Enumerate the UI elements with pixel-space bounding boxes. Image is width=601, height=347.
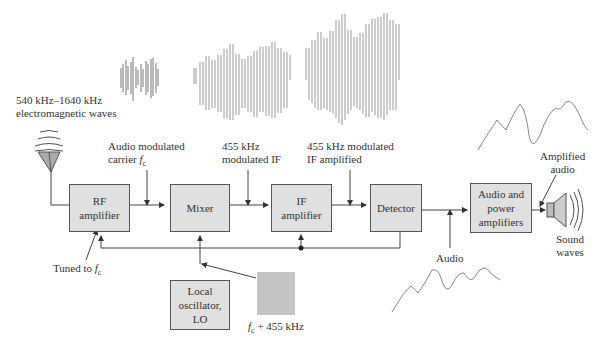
speaker-icon — [547, 189, 583, 231]
if-output-label: 455 kHz modulated IF amplified — [307, 140, 394, 166]
audio-line3: amplifiers — [478, 215, 524, 229]
sound-waves-label: Sound waves — [556, 233, 584, 259]
audio-line1: Audio and — [478, 187, 524, 201]
waveform-lo — [258, 272, 294, 315]
lo-line1: Local — [178, 284, 221, 298]
lo-line2: oscillator, — [178, 298, 221, 312]
waveform-carrier — [121, 57, 158, 101]
waveform-if-amplified — [306, 13, 399, 125]
lo-line3: LO — [178, 312, 221, 326]
detector-label: Detector — [377, 201, 415, 215]
em-waves-label: 540 kHz–1640 kHz electromagnetic waves — [16, 94, 116, 120]
detector-block: Detector — [370, 184, 422, 232]
diagram-lines — [0, 0, 601, 347]
audio-line2: power — [478, 201, 524, 215]
local-oscillator-block: Localoscillator,LO — [170, 280, 230, 330]
junction-dot — [299, 246, 304, 251]
audio-power-amplifiers-block: Audio andpoweramplifiers — [470, 183, 532, 233]
if-line2: amplifier — [281, 208, 321, 222]
rf-line2: amplifier — [79, 208, 119, 222]
waveform-audio — [392, 268, 500, 312]
antenna-icon — [35, 131, 63, 173]
carrier-label: Audio modulated carrier fc — [108, 140, 185, 170]
audio-label: Audio — [436, 252, 464, 265]
if-input-label: 455 kHz modulated IF — [222, 140, 281, 166]
rf-line1: RF — [79, 194, 119, 208]
if-line1: IF — [281, 194, 321, 208]
waveform-amplified-audio — [478, 101, 588, 150]
amplified-audio-label: Amplified audio — [540, 150, 585, 176]
rf-amplifier-block: RFamplifier — [69, 184, 130, 232]
tuned-label: Tuned to fc — [53, 262, 101, 279]
lo-frequency-label: fc + 455 kHz — [248, 320, 304, 337]
waveform-if — [194, 42, 290, 120]
mixer-label: Mixer — [187, 201, 214, 215]
if-amplifier-block: IFamplifier — [271, 184, 332, 232]
mixer-block: Mixer — [170, 184, 230, 232]
